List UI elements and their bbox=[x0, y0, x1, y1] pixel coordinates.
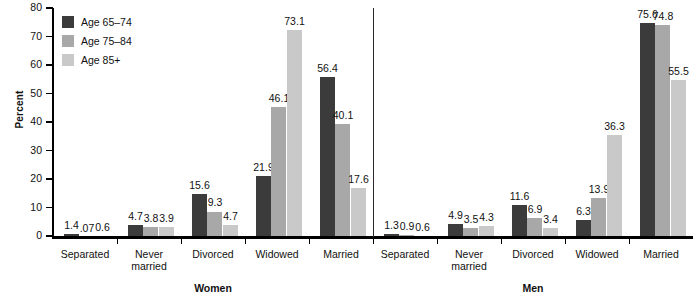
y-axis-tick bbox=[46, 121, 53, 123]
y-axis-tick-label: 10 bbox=[0, 201, 42, 213]
legend-item: Age 85+ bbox=[62, 51, 132, 68]
x-axis-category-label: Never married bbox=[437, 249, 501, 272]
bar bbox=[287, 30, 302, 238]
y-axis-tick bbox=[46, 207, 53, 209]
y-axis-tick-label: 0 bbox=[0, 229, 42, 241]
legend-label: Age 75–84 bbox=[81, 35, 132, 47]
x-axis-tick bbox=[117, 238, 118, 244]
bar-value-label: 4.3 bbox=[474, 211, 500, 223]
x-axis-tick bbox=[373, 238, 374, 244]
y-axis-tick-label: 40 bbox=[0, 115, 42, 127]
bar bbox=[320, 77, 335, 238]
legend-item: Age 75–84 bbox=[62, 32, 132, 49]
x-axis-tick bbox=[309, 238, 310, 244]
x-axis-category-label: Never married bbox=[117, 249, 181, 272]
bar bbox=[351, 188, 366, 238]
x-axis-category-label: Widowed bbox=[565, 249, 629, 261]
panel-group-label-women: Women bbox=[53, 282, 373, 294]
bar bbox=[671, 80, 686, 238]
x-axis-category-label: Married bbox=[309, 249, 373, 261]
bar bbox=[607, 135, 622, 238]
bar-value-label: 15.6 bbox=[187, 179, 213, 191]
x-axis-category-label: Separated bbox=[53, 249, 117, 261]
panel-group-label-men: Men bbox=[373, 282, 693, 294]
bar-value-label: 11.6 bbox=[507, 190, 533, 202]
y-axis-tick bbox=[46, 178, 53, 180]
x-axis-tick bbox=[181, 238, 182, 244]
legend-swatch-icon bbox=[62, 54, 74, 66]
bar-value-label: 36.3 bbox=[602, 120, 628, 132]
bar-value-label: 0.6 bbox=[410, 221, 436, 233]
bar-value-label: 74.8 bbox=[650, 10, 676, 22]
legend-label: Age 65–74 bbox=[81, 16, 132, 28]
y-axis-tick-label: 80 bbox=[0, 1, 42, 13]
x-axis-category-label: Separated bbox=[373, 249, 437, 261]
bar-value-label: 9.3 bbox=[202, 196, 228, 208]
y-axis-tick-label: 20 bbox=[0, 172, 42, 184]
bar bbox=[256, 176, 271, 238]
y-axis-title: Percent bbox=[14, 65, 25, 155]
x-axis-tick bbox=[565, 238, 566, 244]
x-axis-category-label: Married bbox=[629, 249, 693, 261]
x-axis-tick bbox=[245, 238, 246, 244]
x-axis-category-label: Divorced bbox=[181, 249, 245, 261]
legend-swatch-icon bbox=[62, 16, 74, 28]
y-axis-tick bbox=[46, 150, 53, 152]
x-axis-category-label: Widowed bbox=[245, 249, 309, 261]
bar bbox=[655, 25, 670, 238]
x-axis-category-label: Divorced bbox=[501, 249, 565, 261]
bar bbox=[640, 23, 655, 238]
bar-value-label: 55.5 bbox=[666, 65, 692, 77]
bar-value-label: 56.4 bbox=[315, 62, 341, 74]
bar-value-label: 73.1 bbox=[282, 15, 308, 27]
bar bbox=[591, 198, 606, 238]
bar-value-label: 3.9 bbox=[154, 212, 180, 224]
y-axis-tick bbox=[46, 64, 53, 66]
y-axis-tick-label: 50 bbox=[0, 87, 42, 99]
legend-item: Age 65–74 bbox=[62, 13, 132, 30]
bar-chart: Percent 01020304050607080 1.4.070.64.73.… bbox=[0, 0, 697, 304]
bar-value-label: 17.6 bbox=[346, 173, 372, 185]
y-axis-tick bbox=[46, 93, 53, 95]
x-axis-tick bbox=[437, 238, 438, 244]
panel-divider bbox=[373, 8, 374, 237]
legend: Age 65–74Age 75–84Age 85+ bbox=[62, 13, 132, 70]
y-axis-tick bbox=[46, 36, 53, 38]
y-axis-tick-label: 60 bbox=[0, 58, 42, 70]
bar-value-label: 0.6 bbox=[90, 221, 116, 233]
x-axis-tick bbox=[501, 238, 502, 244]
legend-label: Age 85+ bbox=[81, 54, 120, 66]
y-axis-tick-label: 70 bbox=[0, 30, 42, 42]
x-axis-tick bbox=[629, 238, 630, 244]
y-axis-tick bbox=[46, 7, 53, 9]
bar-value-label: 40.1 bbox=[330, 109, 356, 121]
y-axis-tick-label: 30 bbox=[0, 144, 42, 156]
bar bbox=[271, 107, 286, 238]
bar-value-label: 4.7 bbox=[218, 210, 244, 222]
bar-value-label: 3.4 bbox=[538, 213, 564, 225]
legend-swatch-icon bbox=[62, 35, 74, 47]
